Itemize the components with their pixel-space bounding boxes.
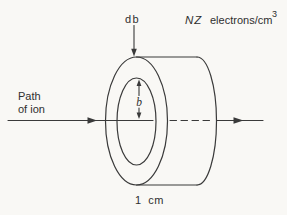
shell-thickness-label: db	[125, 13, 140, 25]
slab-width-label: 1 cm	[135, 194, 164, 206]
diagram-svg: db NZ electrons/cm 3 Path of ion b 1 cm	[0, 0, 287, 215]
electron-density-symbol: NZ	[185, 14, 202, 26]
figure-cylindrical-shell-diagram: db NZ electrons/cm 3 Path of ion b 1 cm	[0, 0, 287, 215]
ion-path-right-arrowhead-icon	[234, 117, 244, 124]
impact-parameter-lower-arrowhead-icon	[137, 113, 142, 120]
electron-density-unit: electrons/cm	[210, 14, 272, 26]
path-of-ion-label-line2: of ion	[18, 103, 45, 115]
ion-path-left-arrowhead-icon	[88, 117, 98, 124]
impact-parameter-upper-arrowhead-icon	[137, 80, 142, 87]
impact-parameter-label: b	[136, 96, 142, 108]
cylinder-front-inner-ellipse	[117, 78, 156, 165]
path-of-ion-label-line1: Path	[18, 90, 41, 102]
electron-density-exponent: 3	[272, 9, 277, 19]
shell-thickness-arrowhead-icon	[131, 49, 137, 57]
